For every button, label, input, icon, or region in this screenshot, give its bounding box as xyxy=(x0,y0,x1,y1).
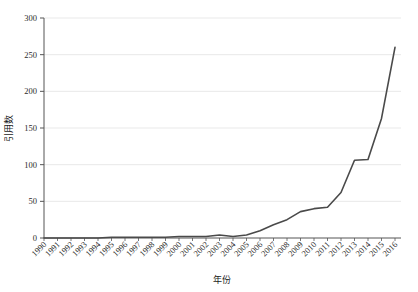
y-tick-label: 0 xyxy=(33,233,37,243)
citation-line-chart: 050100150200250300 199019911992199319941… xyxy=(0,0,418,292)
y-tick-label: 50 xyxy=(29,196,38,206)
y-tick-label: 100 xyxy=(24,160,37,170)
y-tick-label: 250 xyxy=(24,50,37,60)
y-tick-label: 300 xyxy=(24,13,37,23)
y-tick-label: 200 xyxy=(24,86,37,96)
y-tick-label: 150 xyxy=(24,123,37,133)
x-axis-title: 年份 xyxy=(213,274,231,285)
chart-canvas: 050100150200250300 199019911992199319941… xyxy=(0,0,418,292)
y-axis-title: 引用数 xyxy=(3,115,14,142)
